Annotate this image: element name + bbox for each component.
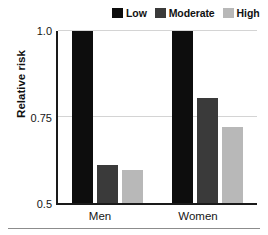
legend-entry-moderate: Moderate — [155, 8, 215, 18]
bar-men-low — [72, 31, 93, 203]
legend-swatch-moderate-icon — [155, 8, 166, 18]
chart-legend: Low Moderate High — [112, 7, 260, 19]
x-tick-women: Women — [152, 209, 244, 223]
legend-swatch-high-icon — [223, 8, 234, 18]
plot-inner — [58, 31, 257, 203]
bar-women-moderate — [197, 98, 218, 203]
legend-entry-low: Low — [112, 8, 147, 18]
y-tick-0-5: 0.5 — [6, 199, 52, 210]
y-tick-0-75: 0.75 — [6, 113, 52, 124]
x-axis-tick-labels: Men Women — [56, 209, 257, 225]
bar-men-high — [122, 170, 143, 203]
relative-risk-bar-chart: Low Moderate High Relative risk 1.0 0.75… — [0, 0, 268, 235]
legend-swatch-low-icon — [112, 8, 123, 18]
bar-men-moderate — [97, 165, 118, 203]
legend-label-low: Low — [126, 8, 147, 18]
bar-women-low — [172, 31, 193, 203]
legend-label-moderate: Moderate — [169, 8, 215, 18]
legend-label-high: High — [237, 8, 260, 18]
plot-area — [56, 31, 257, 205]
legend-entry-high: High — [223, 8, 260, 18]
bar-women-high — [222, 127, 243, 203]
x-tick-men: Men — [56, 209, 144, 223]
y-axis-tick-labels: 1.0 0.75 0.5 — [0, 31, 52, 205]
y-tick-1-0: 1.0 — [6, 26, 52, 37]
footer-divider — [8, 228, 260, 229]
